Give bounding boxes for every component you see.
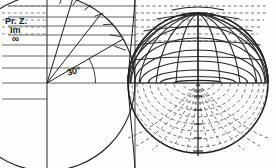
radial-rays xyxy=(47,0,123,83)
angle-arc-30 xyxy=(89,59,96,83)
technical-diagram: Pr. Z. Im ∞ 30° xyxy=(0,0,276,168)
plane-horizontal-gridlines xyxy=(2,6,266,99)
diagram-canvas xyxy=(0,0,276,168)
infinity-label: ∞ xyxy=(12,34,19,43)
